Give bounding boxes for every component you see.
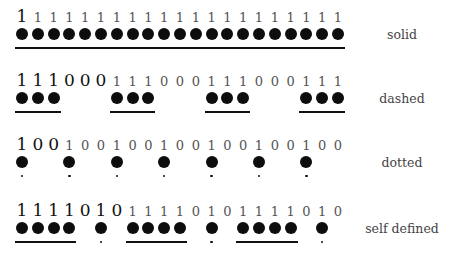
dot-marker	[258, 175, 261, 178]
pattern-digit: 1	[125, 205, 141, 218]
pixel-dot	[174, 28, 186, 40]
line-segment	[15, 111, 61, 113]
pixel-dot	[95, 222, 107, 234]
line-segment	[126, 241, 187, 243]
pattern-digit: 1	[30, 72, 46, 89]
pixel-dot	[206, 28, 218, 40]
pattern-digit: 1	[125, 11, 141, 24]
pixel-dot	[316, 222, 328, 234]
pixel-dot	[332, 28, 344, 40]
pixel-dot	[63, 28, 75, 40]
pattern-digit: 1	[251, 11, 267, 24]
line-segment	[15, 241, 76, 243]
pixel-dot	[79, 28, 91, 40]
pattern-digit: 1	[156, 139, 172, 152]
pattern-digit: 1	[283, 11, 299, 24]
dot-marker	[305, 175, 308, 178]
pattern-digit: 1	[204, 139, 220, 152]
pixel-dot	[48, 28, 60, 40]
line-segment	[236, 241, 297, 243]
pixel-dot	[127, 222, 139, 234]
pattern-digit: 0	[283, 75, 299, 88]
pattern-digit: 0	[298, 205, 314, 218]
pattern-digit: 1	[298, 75, 314, 88]
pattern-digit: 1	[93, 202, 109, 219]
pixel-dot	[16, 222, 28, 234]
pattern-digit: 0	[30, 136, 46, 153]
pattern-digit: 1	[14, 202, 30, 219]
dot-marker	[68, 175, 71, 178]
pixel-dot	[300, 156, 312, 168]
pattern-digit: 1	[140, 75, 156, 88]
pattern-digit: 0	[172, 139, 188, 152]
pattern-row-self-defined: 111101011110101111010self defined	[0, 202, 451, 257]
pattern-digit: 0	[188, 205, 204, 218]
pixel-dot	[221, 92, 233, 104]
pixel-dot	[127, 92, 139, 104]
pattern-row-dotted: 100100100100100100100dotted	[0, 136, 451, 200]
dot-marker	[210, 241, 213, 244]
pattern-digit: 1	[219, 75, 235, 88]
pattern-digit: 0	[109, 202, 125, 219]
pixel-dot	[48, 92, 60, 104]
pattern-digit: 1	[330, 75, 346, 88]
pattern-digit: 1	[109, 75, 125, 88]
pattern-digit: 1	[156, 11, 172, 24]
pixel-dot	[206, 92, 218, 104]
pixel-dot	[63, 222, 75, 234]
row-label-dotted: dotted	[352, 155, 451, 170]
pixel-dot	[158, 156, 170, 168]
pattern-digit: 1	[188, 11, 204, 24]
pattern-digit: 1	[314, 205, 330, 218]
pattern-digit: 1	[267, 11, 283, 24]
pattern-digit: 0	[251, 75, 267, 88]
pixel-dot	[316, 92, 328, 104]
pattern-digit: 1	[251, 139, 267, 152]
pattern-digit: 1	[61, 202, 77, 219]
pixel-dot	[111, 28, 123, 40]
pattern-digit: 1	[172, 205, 188, 218]
pixel-dot	[253, 28, 265, 40]
pattern-digit: 1	[140, 205, 156, 218]
pixel-dot	[285, 222, 297, 234]
pattern-digit: 1	[46, 202, 62, 219]
pattern-digit: 0	[330, 139, 346, 152]
pattern-row-dashed: 111000111000111000111dashed	[0, 72, 451, 136]
line-segment	[205, 111, 251, 113]
pixel-dot	[111, 156, 123, 168]
pattern-digit: 0	[93, 139, 109, 152]
pattern-digit: 0	[219, 139, 235, 152]
pattern-digit: 0	[77, 139, 93, 152]
pixel-dot	[332, 92, 344, 104]
pattern-digit: 1	[140, 11, 156, 24]
pattern-digit: 1	[330, 11, 346, 24]
pattern-digit: 1	[298, 139, 314, 152]
dot-marker	[163, 175, 166, 178]
line-segment	[110, 111, 156, 113]
pattern-digit: 1	[283, 205, 299, 218]
pattern-row-solid: 111111111111111111111solid	[0, 8, 451, 72]
pixel-dot	[316, 28, 328, 40]
pattern-digit: 1	[204, 75, 220, 88]
pixel-dot	[221, 28, 233, 40]
pattern-digit: 1	[14, 8, 30, 25]
pattern-digit: 1	[314, 75, 330, 88]
pattern-digit: 1	[125, 75, 141, 88]
pixel-dot	[16, 156, 28, 168]
pixel-dot	[111, 92, 123, 104]
pattern-digit: 1	[204, 205, 220, 218]
pattern-digit: 1	[235, 11, 251, 24]
pattern-digit: 0	[61, 72, 77, 89]
pixel-dot	[300, 92, 312, 104]
pattern-digit: 0	[156, 75, 172, 88]
pattern-digit: 1	[61, 11, 77, 24]
pattern-digit: 0	[267, 75, 283, 88]
row-label-self-defined: self defined	[352, 221, 451, 236]
dot-marker	[321, 241, 324, 244]
pattern-digit: 1	[235, 205, 251, 218]
pixel-dot	[253, 156, 265, 168]
pixel-dot	[142, 28, 154, 40]
pixel-dot	[16, 28, 28, 40]
dot-marker	[100, 241, 103, 244]
pixel-dot	[48, 222, 60, 234]
